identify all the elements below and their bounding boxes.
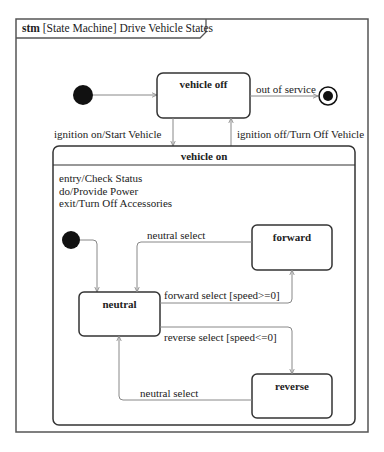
transition-forward-to-neutral[interactable] [137, 242, 252, 292]
label-ignition-on: ignition on/Start Vehicle [54, 128, 161, 141]
reverse-title: reverse [252, 380, 332, 393]
behavior-exit: exit/Turn Off Accessories [59, 197, 172, 210]
vehicle-off-title: vehicle off [157, 78, 250, 91]
initial-state[interactable] [73, 85, 93, 105]
label-ignition-off: ignition off/Turn Off Vehicle [237, 128, 364, 141]
transition-inner-initial-to-neutral[interactable] [80, 240, 97, 292]
label-neutral-to-reverse: reverse select [speed<=0] [164, 331, 277, 344]
frame-keyword: stm [22, 22, 40, 34]
final-state-core [323, 91, 333, 101]
frame-title: stm [State Machine] Drive Vehicle States [22, 22, 213, 35]
frame-title-text: [State Machine] Drive Vehicle States [43, 22, 213, 34]
forward-title: forward [252, 231, 332, 244]
label-neutral-to-forward: forward select [speed>=0] [164, 289, 280, 302]
label-reverse-to-neutral: neutral select [140, 387, 198, 400]
label-forward-to-neutral: neutral select [147, 229, 205, 242]
label-out-of-service: out of service [256, 83, 316, 96]
vehicle-on-title: vehicle on [53, 150, 355, 163]
inner-initial-state[interactable] [62, 231, 80, 249]
behavior-entry: entry/Check Status [59, 172, 142, 185]
neutral-title: neutral [79, 298, 160, 311]
